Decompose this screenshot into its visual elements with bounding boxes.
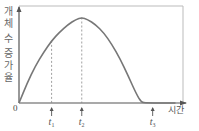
plot-frame: [19, 6, 183, 103]
marker-arrowhead-1: [50, 107, 54, 111]
x-axis-label: 시간: [168, 105, 184, 115]
growth-rate-curve: [19, 18, 175, 103]
marker-arrowhead-2: [80, 107, 84, 111]
y-axis-arrow: [17, 6, 22, 12]
chart: 0t1t2t3시간: [0, 0, 199, 131]
marker-label-1: t1: [49, 116, 55, 128]
marker-arrowhead-3: [151, 107, 155, 111]
marker-label-2: t2: [79, 116, 85, 128]
origin-label: 0: [13, 103, 18, 113]
marker-label-3: t3: [150, 116, 156, 128]
